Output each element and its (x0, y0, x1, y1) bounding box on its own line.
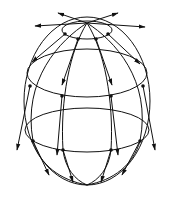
vector-arrow-icon (143, 86, 155, 150)
grid-point (106, 32, 110, 36)
sphere-vector-diagram (0, 0, 174, 197)
grid-point (94, 37, 98, 41)
latitude-lower (25, 108, 149, 152)
grid-point (109, 148, 113, 152)
grid-point (61, 148, 65, 152)
vector-arrow-icon (122, 141, 140, 175)
grid-point (141, 84, 145, 88)
grid-point (109, 94, 113, 98)
vector-arrow-icon (17, 86, 30, 150)
vector-arrow-icon (111, 96, 118, 155)
vector-arrow-icon (57, 96, 62, 155)
vector-arrow-icon (32, 34, 65, 62)
grid-point (28, 84, 32, 88)
grid-point (63, 32, 67, 36)
vector-arrow-icon (62, 39, 78, 85)
vector-arrow-icon (35, 23, 87, 26)
grid-point (31, 139, 35, 143)
vector-arrow-icon (33, 141, 49, 175)
vector-arrow-icon (58, 13, 87, 23)
grid-point (76, 37, 80, 41)
longitude-lines (31, 23, 142, 185)
vector-arrow-icon (87, 13, 118, 23)
grid-point (138, 139, 142, 143)
vector-arrow-icon (96, 39, 112, 85)
latitude-upper (27, 49, 147, 97)
grid-point (60, 94, 64, 98)
